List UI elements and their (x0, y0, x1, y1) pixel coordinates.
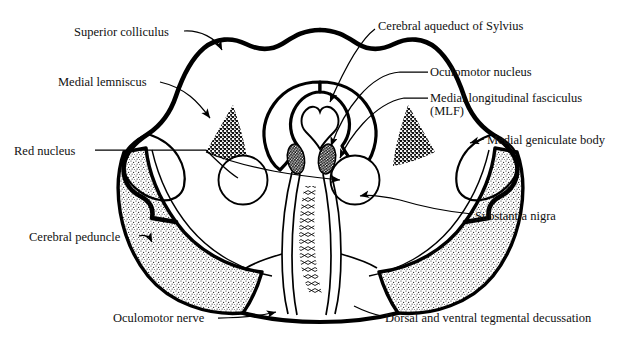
leader-decussation (354, 306, 382, 316)
structure-cerebral-aqueduct-lumen (302, 107, 339, 149)
label-mlf-abbrev: (MLF) (430, 105, 464, 119)
label-red-nucleus: Red nucleus (14, 145, 75, 159)
label-substantia-nigra: Substantia nigra (475, 210, 556, 224)
structure-tegmental-decussation (299, 186, 322, 294)
structure-cerebral-peduncle-right (369, 148, 523, 313)
diagram-canvas (0, 0, 641, 346)
label-oculomotor-nerve: Oculomotor nerve (113, 312, 204, 326)
label-medial-lemniscus: Medial lemniscus (58, 76, 147, 90)
leader-substantia-nigra (400, 200, 472, 214)
label-oculomotor-nucleus: Oculomotor nucleus (430, 66, 532, 80)
label-superior-colliculus: Superior colliculus (74, 26, 169, 40)
label-cerebral-peduncle: Cerebral peduncle (29, 231, 120, 245)
label-cerebral-aqueduct: Cerebral aqueduct of Sylvius (378, 20, 523, 34)
midbrain-diagram: Superior colliculus Cerebral aqueduct of… (0, 0, 641, 346)
label-medial-geniculate-body: Medial geniculate body (487, 134, 605, 148)
structure-medial-lemniscus-right (393, 105, 435, 166)
structure-oculomotor-nucleus-left (285, 143, 306, 175)
label-dorsal-ventral-tegmental-decussation: Dorsal and ventral tegmental decussation (385, 312, 591, 326)
structure-red-nucleus-left (219, 156, 268, 205)
